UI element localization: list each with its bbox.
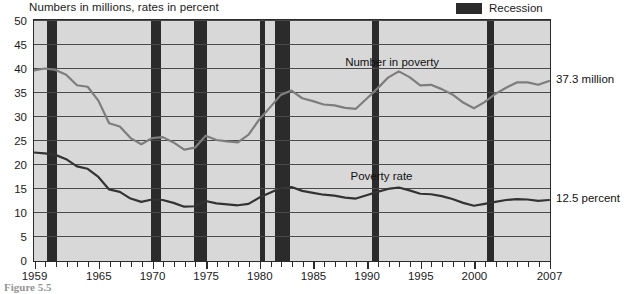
- x-axis-tick-mark: [431, 262, 432, 267]
- x-axis-tick-mark: [346, 262, 347, 267]
- x-axis-tick-mark: [228, 262, 229, 267]
- y-axis-tick-label: 30: [14, 111, 27, 123]
- x-axis-tick-mark: [367, 262, 369, 269]
- y-axis-tick-label: 45: [14, 39, 27, 51]
- x-axis-tick-mark: [539, 262, 540, 267]
- end-label-poverty-rate: 12.5 percent: [556, 192, 620, 204]
- series-label-number-in-poverty: Number in poverty: [345, 56, 439, 68]
- y-axis-tick-label: 25: [14, 135, 27, 147]
- x-axis-tick-label: 1990: [354, 270, 380, 282]
- x-axis-tick-mark: [507, 262, 508, 267]
- y-axis-tick-label: 0: [21, 255, 27, 267]
- x-axis-tick-mark: [356, 262, 357, 267]
- x-axis-tick-mark: [378, 262, 379, 267]
- x-axis-tick-label: 1965: [86, 270, 112, 282]
- x-axis-tick-mark: [313, 262, 315, 269]
- x-axis-tick-mark: [281, 262, 282, 267]
- series-line: [34, 152, 549, 206]
- recession-swatch-icon: [456, 3, 482, 14]
- x-axis-tick-mark: [421, 262, 423, 269]
- series-lines: [34, 20, 549, 260]
- x-axis-tick-mark: [153, 262, 155, 269]
- x-axis-tick-label: 1975: [193, 270, 219, 282]
- y-axis-tick-label: 35: [14, 87, 27, 99]
- x-axis-tick-mark: [453, 262, 454, 267]
- x-axis-tick-label: 2000: [462, 270, 488, 282]
- x-axis-tick-label: 1985: [301, 270, 327, 282]
- x-axis-tick-mark: [88, 262, 89, 267]
- y-axis-tick-label: 15: [14, 183, 27, 195]
- x-axis-tick-mark: [517, 262, 518, 267]
- y-axis-tick-label: 5: [21, 231, 27, 243]
- x-axis-tick-mark: [120, 262, 121, 267]
- poverty-chart-figure: Numbers in millions, rates in percent Re…: [0, 0, 634, 294]
- x-axis-tick-mark: [77, 262, 78, 267]
- x-axis-tick-mark: [292, 262, 293, 267]
- x-axis-tick-mark: [389, 262, 390, 267]
- series-label-poverty-rate: Poverty rate: [351, 170, 413, 182]
- x-axis-tick-mark: [496, 262, 497, 267]
- x-axis-tick-mark: [474, 262, 476, 269]
- x-axis-tick-mark: [163, 262, 164, 267]
- x-axis-tick-mark: [249, 262, 250, 267]
- x-axis-tick-mark: [142, 262, 143, 267]
- legend-label-recession: Recession: [489, 2, 543, 14]
- plot-area: Number in poverty Poverty rate: [33, 19, 551, 262]
- figure-caption: Figure 5.5: [4, 281, 51, 293]
- x-axis-tick-mark: [335, 262, 336, 267]
- x-axis-tick-mark: [131, 262, 132, 267]
- x-axis-tick-mark: [399, 262, 400, 267]
- x-axis-tick-mark: [485, 262, 486, 267]
- x-axis-tick-mark: [195, 262, 196, 267]
- x-axis-tick-mark: [528, 262, 529, 267]
- x-axis-tick-mark: [99, 262, 101, 269]
- y-axis-tick-label: 20: [14, 159, 27, 171]
- x-axis: 1959196519701975198019851990199520002007: [33, 262, 551, 292]
- series-line: [34, 68, 549, 149]
- y-axis-tick-label: 40: [14, 63, 27, 75]
- x-axis-tick-label: 1995: [408, 270, 434, 282]
- end-label-number-in-poverty: 37.3 million: [556, 73, 614, 85]
- x-axis-tick-mark: [185, 262, 186, 267]
- plot-inner: [34, 20, 550, 261]
- x-axis-tick-mark: [174, 262, 175, 267]
- x-axis-tick-mark: [217, 262, 218, 267]
- y-axis-tick-label: 10: [14, 207, 27, 219]
- x-axis-tick-mark: [56, 262, 57, 267]
- y-axis: 05101520253035404550: [0, 19, 31, 262]
- x-axis-tick-mark: [271, 262, 272, 267]
- x-axis-tick-mark: [110, 262, 111, 267]
- x-axis-tick-mark: [550, 262, 552, 269]
- x-axis-tick-mark: [260, 262, 262, 269]
- x-axis-tick-mark: [45, 262, 46, 267]
- chart-legend: Recession: [456, 2, 543, 14]
- x-axis-tick-label: 1970: [140, 270, 166, 282]
- x-axis-tick-mark: [464, 262, 465, 267]
- x-axis-tick-mark: [324, 262, 325, 267]
- x-axis-tick-mark: [442, 262, 443, 267]
- x-axis-tick-mark: [35, 262, 37, 269]
- x-axis-tick-mark: [238, 262, 239, 267]
- x-axis-tick-mark: [410, 262, 411, 267]
- x-axis-tick-label: 2007: [537, 270, 563, 282]
- x-axis-tick-label: 1980: [247, 270, 273, 282]
- y-axis-tick-label: 50: [14, 15, 27, 27]
- x-axis-tick-mark: [206, 262, 208, 269]
- x-axis-tick-mark: [67, 262, 68, 267]
- x-axis-tick-mark: [303, 262, 304, 267]
- chart-title: Numbers in millions, rates in percent: [29, 1, 219, 13]
